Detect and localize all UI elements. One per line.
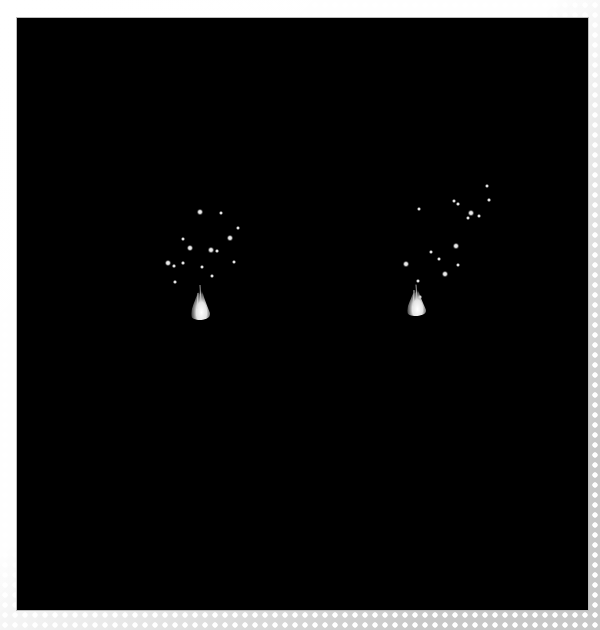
flame-glow: [404, 281, 428, 317]
star-dot: [442, 271, 448, 277]
star-dot: [468, 210, 473, 215]
stereo-scene: [17, 18, 588, 610]
star-dot: [466, 216, 470, 220]
right-view-panel: [17, 18, 588, 610]
star-dot: [453, 243, 458, 248]
star-dot: [417, 207, 421, 211]
star-dot: [429, 250, 433, 254]
star-dot: [456, 202, 459, 205]
star-dot: [485, 184, 489, 188]
image-frame: [17, 18, 588, 610]
star-dot: [487, 198, 490, 201]
star-dot: [403, 261, 409, 267]
star-dot: [437, 257, 441, 261]
star-dot: [477, 214, 481, 218]
star-dot: [456, 263, 460, 267]
